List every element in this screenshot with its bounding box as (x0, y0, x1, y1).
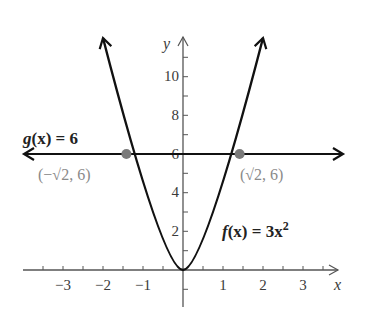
g-function-label-rest: (x) = 6 (32, 129, 79, 148)
y-tick-label: 4 (172, 184, 180, 200)
left-point-label: (−√2, 6) (38, 166, 90, 184)
y-tick-label: 10 (164, 68, 179, 84)
function-graph: −3 −2 −1 1 2 3 x 2 4 6 8 10 y (0, 0, 375, 322)
x-tick-label: 1 (219, 277, 227, 293)
f-function-label: f(x) = 3x2 (222, 219, 289, 241)
x-tick-label: 2 (259, 277, 267, 293)
y-axis: 2 4 6 8 10 y (161, 35, 188, 307)
x-tick-label: −2 (95, 277, 111, 293)
intersection-point-left (121, 149, 131, 159)
f-function-label-exp: 2 (283, 219, 289, 233)
x-axis-label: x (333, 276, 341, 293)
y-tick-label: 2 (172, 223, 180, 239)
x-tick-label: −1 (135, 277, 151, 293)
x-tick-label: −3 (55, 277, 71, 293)
x-tick-label: 3 (299, 277, 307, 293)
y-tick-label: 8 (172, 107, 180, 123)
f-function-label-rest: (x) = 3x (228, 222, 284, 241)
g-function-label: g(x) = 6 (22, 129, 78, 148)
intersection-point-right (235, 149, 245, 159)
y-axis-label: y (161, 35, 171, 53)
right-point-label: (√2, 6) (240, 166, 283, 184)
